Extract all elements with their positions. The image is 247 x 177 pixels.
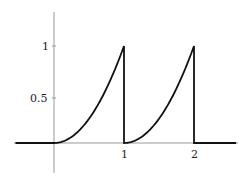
y-tick-label-half: 0.5 (30, 92, 48, 105)
chart: 1 0.5 1 2 (0, 0, 247, 177)
x-tick-label-1: 1 (121, 148, 128, 161)
x-tick-label-2: 2 (191, 148, 198, 161)
function-curve (16, 46, 237, 143)
y-tick-label-one: 1 (42, 40, 49, 53)
